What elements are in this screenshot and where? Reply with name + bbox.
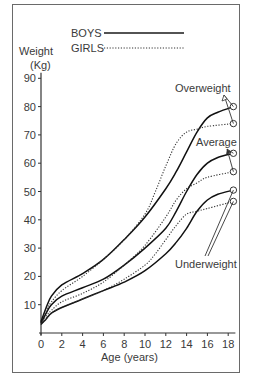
- y-tick-label: 30: [24, 242, 36, 254]
- x-tick-label: 6: [100, 338, 106, 350]
- growth-chart: BOYS GIRLS Weight (Kg) Age (years) 10203…: [0, 0, 257, 385]
- series-line-boys-average: [41, 153, 233, 323]
- x-tick-label: 14: [180, 338, 192, 350]
- x-tick-label: 0: [38, 338, 44, 350]
- x-tick-label: 18: [222, 338, 234, 350]
- x-tick-label: 10: [139, 338, 151, 350]
- y-tick-label: 70: [24, 129, 36, 141]
- y-tick-label: 90: [24, 72, 36, 84]
- x-tick-label: 12: [160, 338, 172, 350]
- annotation-underweight: Underweight: [175, 258, 237, 270]
- y-tick-label: 80: [24, 101, 36, 113]
- y-axis-label-line2: (Kg): [30, 59, 51, 71]
- y-tick-label: 10: [24, 299, 36, 311]
- y-tick-label: 20: [24, 270, 36, 282]
- annotation-pointer: [205, 190, 233, 256]
- x-axis-label: Age (years): [101, 351, 158, 363]
- x-tick-label: 8: [121, 338, 127, 350]
- annotation-pointer: [208, 201, 233, 256]
- x-tick-label: 4: [80, 338, 86, 350]
- legend-label-girls: GIRLS: [71, 42, 104, 54]
- y-tick-label: 50: [24, 186, 36, 198]
- y-tick-label: 60: [24, 157, 36, 169]
- legend: BOYS GIRLS: [71, 27, 184, 54]
- annotations: Overweight Average Underweight: [175, 82, 237, 270]
- x-tick-label: 16: [201, 338, 213, 350]
- legend-label-boys: BOYS: [71, 27, 102, 39]
- x-tick-label: 2: [59, 338, 65, 350]
- annotation-overweight: Overweight: [175, 82, 231, 94]
- series-line-girls-average: [41, 172, 233, 323]
- y-axis-label-line1: Weight: [19, 45, 53, 57]
- y-tick-label: 40: [24, 214, 36, 226]
- axes: 102030405060708090024681012141618: [24, 72, 236, 350]
- annotation-average: Average: [196, 136, 237, 148]
